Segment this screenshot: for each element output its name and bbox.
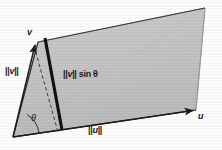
- label-vector-u: u: [198, 112, 204, 121]
- label-height-v-sin-theta: ||v|| sin θ: [63, 70, 98, 79]
- label-angle-theta: θ: [31, 114, 36, 123]
- vector-parallelogram-diagram: ||v|| ||v|| sin θ ||u|| v u θ: [0, 0, 222, 150]
- label-u-magnitude: ||u||: [88, 126, 102, 135]
- label-vector-v: v: [27, 28, 32, 37]
- label-v-magnitude: ||v||: [5, 67, 19, 76]
- diagram-canvas: [0, 0, 222, 150]
